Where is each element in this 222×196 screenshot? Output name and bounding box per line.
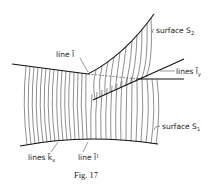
surface-s2-curve bbox=[88, 14, 154, 74]
line-l-left bbox=[12, 64, 88, 74]
line-l1-label: line l̄¹ bbox=[78, 153, 99, 162]
surface-s1-label: surface S1 bbox=[162, 122, 200, 132]
dashed-line bbox=[88, 74, 138, 79]
figure-diagram: surface S2 line l̄ lines l̄y surface S1 … bbox=[0, 0, 222, 196]
line-l-label: line l̄ bbox=[56, 50, 75, 59]
lower-hatch-lines bbox=[24, 66, 159, 145]
lines-kx-label: lines k̄x bbox=[28, 153, 55, 163]
figure-caption: Fig. 17 bbox=[74, 170, 98, 180]
lines-ly-label: lines l̄y bbox=[176, 67, 201, 78]
surface-s2-label: surface S2 bbox=[156, 26, 194, 36]
bottom-curve bbox=[20, 139, 158, 146]
